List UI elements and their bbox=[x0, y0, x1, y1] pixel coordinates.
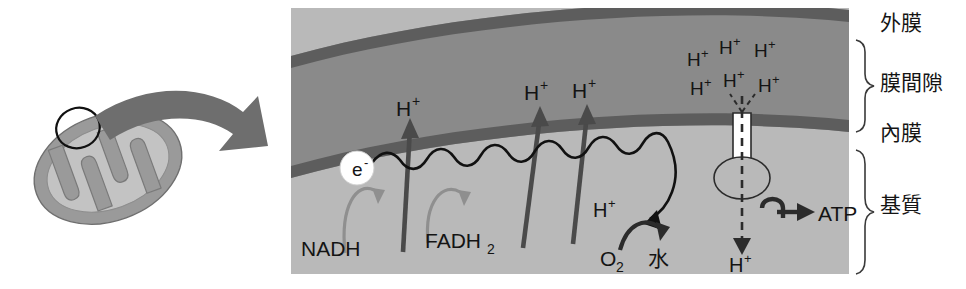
fadh2-subscript: 2 bbox=[487, 241, 495, 257]
atp-flow-h-charge: + bbox=[744, 251, 752, 266]
pump-1-charge: + bbox=[412, 93, 420, 109]
pump-3-charge: + bbox=[588, 75, 596, 91]
electron-badge: e - bbox=[340, 151, 374, 185]
electron-symbol: e bbox=[352, 159, 363, 180]
ims-h-2-charge: + bbox=[733, 34, 741, 49]
ims-h-1-charge: + bbox=[701, 46, 709, 61]
intermembrane-space-label: 膜間隙 bbox=[880, 71, 943, 94]
ims-h-3-symbol: H bbox=[754, 40, 768, 61]
terminal-h-symbol: H bbox=[593, 199, 607, 221]
atp-flow-h-symbol: H bbox=[729, 254, 743, 276]
ims-h-4-charge: + bbox=[704, 75, 712, 90]
electron-charge: - bbox=[364, 155, 368, 170]
ims-h-1-symbol: H bbox=[687, 49, 701, 70]
fadh2-symbol: FADH bbox=[425, 229, 481, 252]
pump-1-h: H bbox=[396, 97, 411, 120]
ims-h-6-charge: + bbox=[772, 72, 780, 87]
figure-canvas: e - H + H + bbox=[0, 0, 966, 289]
oxygen-subscript: 2 bbox=[616, 259, 624, 275]
ims-h-3-charge: + bbox=[768, 37, 776, 52]
matrix-label: 基質 bbox=[880, 193, 922, 216]
atp-synthase-head bbox=[714, 157, 770, 199]
ims-h-5-charge: + bbox=[737, 67, 745, 82]
outer-membrane-label: 外膜 bbox=[880, 11, 922, 34]
ims-h-6-symbol: H bbox=[758, 75, 772, 96]
inner-membrane-label: 內膜 bbox=[880, 121, 922, 144]
pump-3-h: H bbox=[572, 79, 587, 102]
oxygen-symbol: O bbox=[600, 247, 616, 270]
pump-2-h: H bbox=[524, 81, 539, 104]
water-label: 水 bbox=[648, 247, 669, 270]
nadh-label: NADH bbox=[301, 237, 361, 260]
terminal-h-charge: + bbox=[608, 196, 616, 211]
ims-h-5-symbol: H bbox=[723, 70, 737, 91]
ims-h-4-symbol: H bbox=[690, 78, 704, 99]
ims-h-2-symbol: H bbox=[719, 37, 733, 58]
atp-label: ATP bbox=[818, 202, 857, 225]
pump-2-charge: + bbox=[540, 77, 548, 93]
